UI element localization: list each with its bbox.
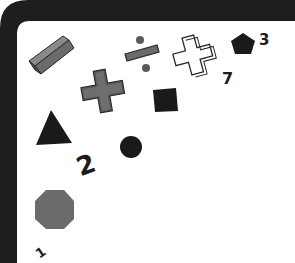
minus-bar-icon [29,36,74,74]
multiply-sign-icon [78,67,127,116]
octagon-icon [35,190,74,229]
number-3: 3 [259,33,269,48]
outlined-plus-icon [169,31,219,81]
circle-icon [120,136,142,158]
math-shapes-illustration: 3 7 2 1 [0,0,295,263]
division-sign-icon [125,36,159,72]
scene-svg [0,0,295,263]
pentagon-icon [231,33,255,54]
number-7: 7 [222,71,233,87]
square-icon [153,88,178,112]
triangle-icon [36,110,72,145]
